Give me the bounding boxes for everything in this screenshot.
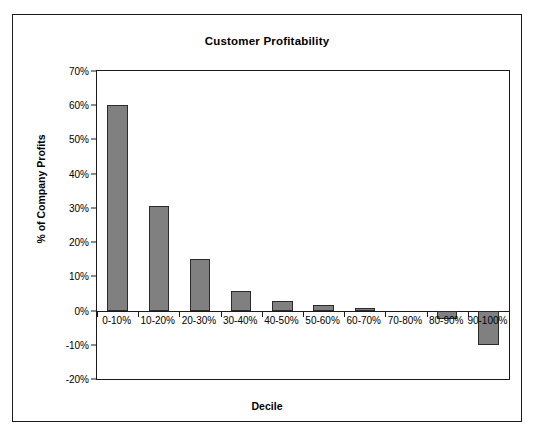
bar (149, 206, 170, 310)
x-tick-label: 0-10% (96, 315, 137, 327)
plot-area: 70%60%50%40%30%20%10%0%-10%-20% (96, 70, 510, 380)
x-tick-label: 40-50% (261, 315, 302, 327)
bar (231, 291, 252, 311)
x-axis-title: Decile (13, 400, 521, 412)
y-tick-mark (91, 105, 97, 106)
y-tick-mark (91, 344, 97, 345)
x-tick-mark (509, 311, 510, 317)
y-tick-mark (91, 173, 97, 174)
bar (107, 105, 128, 310)
y-tick-mark (91, 242, 97, 243)
chart-title: Customer Profitability (13, 35, 521, 47)
x-tick-label: 20-30% (178, 315, 219, 327)
chart-frame: Customer Profitability % of Company Prof… (12, 14, 522, 422)
x-tick-label: 90-100% (467, 315, 508, 327)
x-tick-label: 30-40% (220, 315, 261, 327)
bar (272, 301, 293, 311)
y-tick-mark (91, 276, 97, 277)
y-tick-mark (91, 207, 97, 208)
y-tick-mark (91, 71, 97, 72)
x-tick-label: 60-70% (343, 315, 384, 327)
bar (313, 305, 334, 310)
x-tick-label: 50-60% (302, 315, 343, 327)
x-tick-label: 80-90% (426, 315, 467, 327)
bar (355, 308, 376, 311)
x-tick-label: 70-80% (384, 315, 425, 327)
y-axis-title: % of Company Profits (35, 114, 47, 264)
bar (190, 259, 211, 310)
y-tick-mark (91, 139, 97, 140)
x-tick-label: 10-20% (137, 315, 178, 327)
y-tick-mark (91, 379, 97, 380)
